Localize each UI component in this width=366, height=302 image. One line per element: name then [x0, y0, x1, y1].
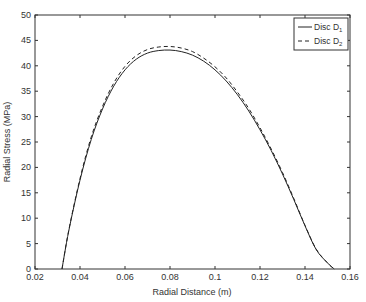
y-tick-label: 30 — [21, 112, 31, 122]
y-tick-label: 40 — [21, 61, 31, 71]
y-tick-label: 5 — [26, 239, 31, 249]
y-tick-label: 0 — [26, 264, 31, 274]
legend-label-d1: Disc D1 — [314, 22, 343, 33]
y-tick-label: 20 — [21, 162, 31, 172]
y-tick-label: 25 — [21, 137, 31, 147]
y-tick-label: 10 — [21, 213, 31, 223]
x-tick-label: 0.08 — [161, 272, 179, 282]
x-tick-label: 0.04 — [71, 272, 89, 282]
x-tick-label: 0.1 — [209, 272, 222, 282]
x-tick-label: 0.14 — [296, 272, 314, 282]
x-tick-label: 0.12 — [251, 272, 269, 282]
legend-label-d2: Disc D2 — [314, 36, 343, 47]
radial-stress-chart: 0.020.040.060.080.10.120.140.16 05101520… — [0, 0, 366, 302]
y-tick-label: 15 — [21, 188, 31, 198]
y-axis-label: Radial Stress (MPa) — [2, 102, 12, 183]
legend: Disc D1 Disc D2 — [294, 18, 348, 50]
x-tick-label: 0.16 — [341, 272, 359, 282]
x-tick-label: 0.06 — [116, 272, 134, 282]
y-tick-label: 50 — [21, 10, 31, 20]
y-tick-label: 35 — [21, 86, 31, 96]
x-axis-label: Radial Distance (m) — [152, 287, 231, 297]
y-tick-label: 45 — [21, 35, 31, 45]
